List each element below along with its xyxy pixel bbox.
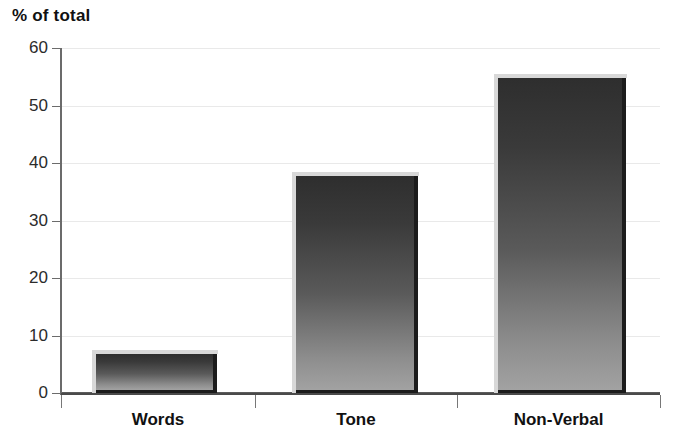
bar-highlight-left bbox=[292, 172, 296, 395]
x-axis-line bbox=[61, 393, 660, 395]
x-tick-label-words: Words bbox=[132, 410, 185, 430]
bar-highlight-left bbox=[494, 74, 498, 394]
y-tick-label-0: 0 bbox=[6, 383, 48, 403]
y-tick-mark-30 bbox=[52, 221, 61, 222]
x-tick-label-non-verbal: Non-Verbal bbox=[514, 410, 604, 430]
x-axis-separator-1 bbox=[457, 395, 458, 408]
y-tick-label-40: 40 bbox=[6, 153, 48, 173]
y-axis-line bbox=[60, 48, 62, 395]
x-axis-separator-0 bbox=[255, 395, 256, 408]
x-axis-end-tick-1 bbox=[660, 395, 661, 408]
y-tick-label-50: 50 bbox=[6, 96, 48, 116]
bar-highlight-left bbox=[92, 350, 96, 394]
y-tick-mark-60 bbox=[52, 48, 61, 49]
y-tick-label-60: 60 bbox=[6, 38, 48, 58]
bar-highlight-top bbox=[92, 350, 218, 354]
y-tick-mark-50 bbox=[52, 106, 61, 107]
x-axis-end-tick-0 bbox=[61, 395, 62, 408]
x-tick-label-tone: Tone bbox=[336, 410, 375, 430]
bar-highlight-top bbox=[292, 172, 419, 176]
plot-area bbox=[61, 48, 660, 393]
bar-words bbox=[95, 353, 217, 393]
bar-tone bbox=[295, 175, 418, 394]
y-tick-mark-40 bbox=[52, 163, 61, 164]
gridline-60 bbox=[61, 48, 660, 49]
bar-highlight-top bbox=[494, 74, 627, 78]
y-tick-mark-20 bbox=[52, 278, 61, 279]
y-tick-mark-0 bbox=[52, 393, 61, 394]
y-tick-label-30: 30 bbox=[6, 211, 48, 231]
bar-non-verbal bbox=[497, 77, 626, 393]
y-tick-mark-10 bbox=[52, 336, 61, 337]
y-axis-labels: 0102030405060 bbox=[0, 0, 48, 448]
bar-chart: % of total 0102030405060 WordsToneNon-Ve… bbox=[0, 0, 674, 448]
y-tick-label-10: 10 bbox=[6, 326, 48, 346]
y-tick-label-20: 20 bbox=[6, 268, 48, 288]
